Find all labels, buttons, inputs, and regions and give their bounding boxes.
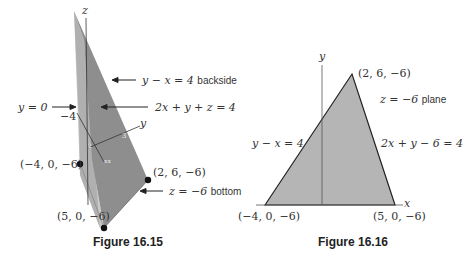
z-axis-label: z: [82, 5, 88, 16]
svg-text:3: 3: [122, 132, 126, 140]
svg-text:xx: xx: [104, 157, 111, 164]
point-label-neg4-0-neg6: (−4, 0, −6): [20, 159, 82, 170]
point-label-5-0-neg6: (5, 0, −6): [57, 211, 110, 222]
front-plane-label: 2x + y + z = 4: [155, 102, 236, 113]
arrow-y0: [52, 105, 76, 110]
vertex-2-6-neg6: [145, 177, 151, 183]
right-y-axis-label: y: [319, 51, 325, 62]
arrow-backside: [112, 78, 136, 83]
y-axis-label: y: [140, 118, 146, 129]
svg-text:2: 2: [88, 142, 92, 149]
tick-minus4-label: −4: [60, 111, 76, 122]
right-point-label-5-0-neg6: (5, 0, −6): [373, 211, 426, 222]
right-point-label-2-6-neg6: (2, 6, −6): [358, 68, 411, 79]
figure-16-16-caption: Figure 16.16: [318, 236, 388, 248]
y0-label: y = 0: [18, 102, 47, 113]
right-edge-label: 2x + y − 6 = 4: [381, 138, 463, 149]
backside-label: y − x = 4 backside: [142, 75, 237, 86]
right-point-label-neg4-0-neg6: (−4, 0, −6): [238, 211, 300, 222]
left-edge-label: y − x = 4: [252, 138, 304, 149]
plane-label: z = −6 plane: [380, 94, 446, 105]
figure-16-15-caption: Figure 16.15: [93, 236, 163, 248]
right-x-axis-label: x: [404, 198, 410, 209]
arrow-bottom: [140, 189, 163, 194]
vertex-5-0-neg6: [101, 225, 107, 231]
bottom-label: z = −6 bottom: [169, 186, 241, 197]
point-label-2-6-neg6: (2, 6, −6): [153, 167, 206, 178]
